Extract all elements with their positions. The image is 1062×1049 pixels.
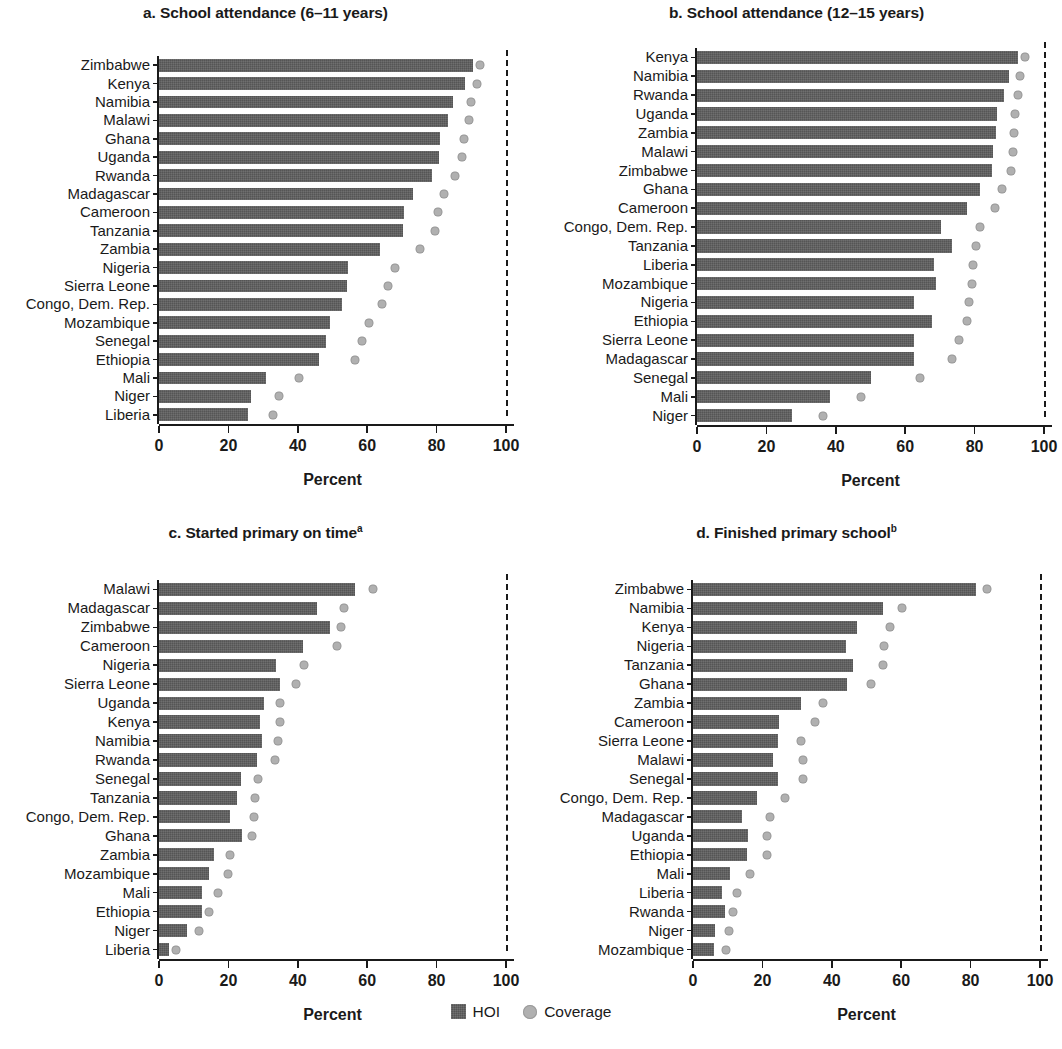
bar-row: Ghana bbox=[159, 130, 506, 148]
coverage-dot bbox=[962, 317, 971, 326]
category-label: Zimbabwe bbox=[81, 57, 150, 72]
hoi-bar bbox=[697, 107, 997, 120]
hoi-bar bbox=[697, 51, 1018, 64]
bar-row: Cameroon bbox=[697, 199, 1044, 218]
x-tick-label: 20 bbox=[753, 972, 771, 990]
hoi-bar bbox=[159, 621, 330, 634]
coverage-dot bbox=[250, 793, 259, 802]
panel-b-x-axis bbox=[697, 425, 1052, 427]
category-label: Ghana bbox=[105, 131, 150, 146]
coverage-dot bbox=[213, 888, 222, 897]
category-label: Sierra Leone bbox=[64, 278, 150, 293]
coverage-dot bbox=[340, 604, 349, 613]
hoi-bar bbox=[697, 239, 952, 252]
hoi-bar bbox=[159, 206, 404, 219]
hoi-bar bbox=[159, 151, 439, 164]
hoi-bar bbox=[159, 829, 242, 842]
hoi-bar bbox=[159, 372, 266, 385]
coverage-dot bbox=[886, 623, 895, 632]
bar-row: Sierra Leone bbox=[159, 675, 506, 694]
category-label: Rwanda bbox=[633, 87, 688, 102]
coverage-dot bbox=[357, 337, 366, 346]
bar-row: Zambia bbox=[159, 845, 506, 864]
coverage-dot bbox=[439, 189, 448, 198]
bar-row: Rwanda bbox=[159, 751, 506, 770]
category-label: Zambia bbox=[634, 695, 684, 710]
category-label: Rwanda bbox=[95, 168, 150, 183]
coverage-dot bbox=[819, 411, 828, 420]
x-tick-label: 100 bbox=[1027, 972, 1054, 990]
coverage-dot bbox=[983, 585, 992, 594]
x-tick-label: 100 bbox=[493, 972, 520, 990]
category-label: Malawi bbox=[103, 113, 150, 128]
x-tick-label: 0 bbox=[689, 972, 698, 990]
category-label: Senegal bbox=[629, 771, 684, 786]
legend-item-coverage: Coverage bbox=[523, 1004, 611, 1020]
coverage-dot bbox=[969, 260, 978, 269]
category-label: Mali bbox=[656, 866, 684, 881]
category-label: Ethiopia bbox=[630, 847, 684, 862]
category-label: Nigeria bbox=[102, 657, 150, 672]
category-label: Tanzania bbox=[628, 238, 688, 253]
coverage-dot bbox=[225, 850, 234, 859]
coverage-dot bbox=[300, 661, 309, 670]
reference-line-100 bbox=[506, 50, 508, 416]
x-tick-label: 80 bbox=[962, 972, 980, 990]
hoi-bar bbox=[693, 943, 714, 956]
coverage-dot bbox=[1010, 109, 1019, 118]
hoi-bar bbox=[159, 280, 347, 293]
coverage-dot bbox=[250, 812, 259, 821]
coverage-dot bbox=[275, 392, 284, 401]
bar-row: Uganda bbox=[159, 694, 506, 713]
category-label: Malawi bbox=[103, 582, 150, 597]
coverage-dot bbox=[204, 907, 213, 916]
coverage-dot bbox=[897, 604, 906, 613]
bar-row: Niger bbox=[159, 921, 506, 940]
coverage-dot bbox=[467, 97, 476, 106]
x-tick-label: 40 bbox=[289, 437, 307, 455]
hoi-bar bbox=[693, 659, 853, 672]
panel-c-plot: MalawiMadagascarZimbabweCameroonNigeriaS… bbox=[159, 580, 506, 959]
hoi-bar bbox=[697, 352, 914, 365]
coverage-dot bbox=[745, 869, 754, 878]
coverage-dot bbox=[273, 737, 282, 746]
panel-a-title-text: a. School attendance (6–11 years) bbox=[143, 4, 388, 21]
x-tick-label: 20 bbox=[219, 972, 237, 990]
coverage-dot bbox=[247, 831, 256, 840]
hoi-bar bbox=[159, 114, 448, 127]
hoi-bar bbox=[159, 169, 432, 182]
hoi-bar bbox=[693, 810, 742, 823]
coverage-dot bbox=[722, 945, 731, 954]
coverage-dot bbox=[819, 699, 828, 708]
category-label: Namibia bbox=[629, 601, 684, 616]
coverage-dot bbox=[369, 585, 378, 594]
x-tick bbox=[158, 426, 160, 433]
category-label: Cameroon bbox=[80, 639, 150, 654]
coverage-dot bbox=[270, 756, 279, 765]
category-label: Mali bbox=[122, 885, 150, 900]
category-label: Congo, Dem. Rep. bbox=[26, 297, 150, 312]
category-label: Madagascar bbox=[67, 601, 150, 616]
category-label: Liberia bbox=[643, 257, 688, 272]
coverage-dot bbox=[390, 263, 399, 272]
category-label: Uganda bbox=[97, 149, 150, 164]
x-tick-label: 60 bbox=[896, 438, 914, 456]
x-tick bbox=[766, 427, 768, 434]
coverage-dot bbox=[431, 226, 440, 235]
x-tick-label: 40 bbox=[289, 972, 307, 990]
coverage-dot bbox=[766, 812, 775, 821]
category-label: Senegal bbox=[633, 370, 688, 385]
bar-row: Madagascar bbox=[159, 599, 506, 618]
panel-b: b. School attendance (12–15 years) Kenya… bbox=[531, 4, 1062, 504]
bar-row: Madagascar bbox=[693, 807, 1040, 826]
hoi-bar bbox=[693, 772, 778, 785]
coverage-dot bbox=[967, 279, 976, 288]
bar-row: Madagascar bbox=[697, 350, 1044, 369]
hoi-bar bbox=[159, 886, 202, 899]
coverage-dot bbox=[965, 298, 974, 307]
x-tick-label: 80 bbox=[428, 972, 446, 990]
legend-item-hoi: HOI bbox=[451, 1004, 501, 1020]
bar-row: Senegal bbox=[693, 770, 1040, 789]
coverage-dot bbox=[460, 134, 469, 143]
panel-d-title-superscript: b bbox=[891, 523, 897, 534]
